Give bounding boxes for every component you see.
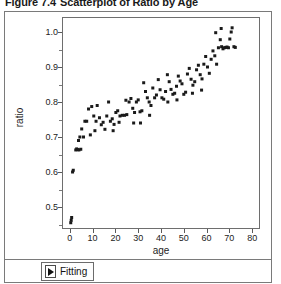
scatter-point bbox=[186, 73, 189, 76]
scatter-point bbox=[179, 80, 182, 83]
bottom-toolbar: Fitting bbox=[4, 260, 272, 283]
fitting-label: Fitting bbox=[60, 267, 87, 277]
scatter-point bbox=[132, 122, 135, 125]
scatter-point bbox=[202, 63, 205, 66]
scatter-point bbox=[142, 81, 145, 84]
scatter-point bbox=[80, 127, 83, 130]
scatter-point bbox=[105, 115, 108, 118]
scatter-point bbox=[211, 49, 214, 52]
x-tick-label: 40 bbox=[150, 234, 172, 243]
y-tick-mark bbox=[58, 137, 62, 138]
scatter-point bbox=[70, 216, 73, 219]
x-tick-label: 0 bbox=[59, 234, 81, 243]
scatter-point bbox=[168, 80, 171, 83]
y-tick-mark bbox=[58, 102, 62, 103]
x-tick-label: 20 bbox=[104, 234, 126, 243]
scatter-point bbox=[102, 121, 105, 124]
scatter-point bbox=[133, 111, 136, 114]
x-tick-label: 30 bbox=[127, 234, 149, 243]
scatter-point bbox=[166, 101, 169, 104]
scatter-point bbox=[107, 101, 110, 104]
scatter-point bbox=[190, 78, 193, 81]
scatter-point bbox=[96, 104, 99, 107]
scatter-point bbox=[175, 98, 178, 101]
scatter-point bbox=[146, 96, 149, 99]
scatter-point bbox=[82, 136, 85, 139]
scatter-point bbox=[230, 31, 233, 34]
scatter-point bbox=[144, 90, 147, 93]
scatter-point bbox=[131, 107, 134, 110]
figure-caption-text: Scatterplot of Ratio by Age bbox=[60, 0, 198, 8]
scatter-point bbox=[139, 122, 142, 125]
y-tick-mark bbox=[58, 67, 62, 68]
scatter-point bbox=[151, 87, 154, 90]
y-tick-label: 1.0 bbox=[36, 28, 58, 37]
scatter-point bbox=[180, 82, 183, 85]
x-tick-label: 10 bbox=[82, 234, 104, 243]
scatter-point bbox=[77, 139, 80, 142]
y-tick-minor-mark bbox=[59, 225, 62, 226]
scatter-point bbox=[112, 129, 115, 132]
scatter-point bbox=[164, 90, 167, 93]
scatter-point bbox=[116, 109, 119, 112]
scatter-point bbox=[128, 101, 131, 104]
scatter-point bbox=[175, 85, 178, 88]
y-tick-minor-mark bbox=[59, 155, 62, 156]
y-tick-label: 0.5 bbox=[36, 203, 58, 212]
scatter-point bbox=[231, 26, 234, 29]
scatter-point bbox=[195, 68, 198, 71]
scatter-point bbox=[149, 104, 152, 107]
scatter-point bbox=[93, 129, 96, 132]
y-tick-minor-mark bbox=[59, 120, 62, 121]
y-tick-minor-mark bbox=[59, 50, 62, 51]
figure-screenshot: Figure 7.4Scatterplot of Ratio by Age ra… bbox=[0, 0, 281, 284]
y-tick-minor-mark bbox=[59, 85, 62, 86]
x-tick-label: 80 bbox=[241, 234, 263, 243]
y-tick-mark bbox=[58, 207, 62, 208]
y-tick-mark bbox=[58, 172, 62, 173]
triangle-right-icon[interactable] bbox=[45, 265, 56, 278]
scatter-point bbox=[213, 54, 216, 57]
y-tick-minor-mark bbox=[59, 190, 62, 191]
scatter-point bbox=[204, 55, 207, 58]
scatter-point bbox=[70, 219, 73, 222]
scatter-point bbox=[153, 96, 156, 99]
scatter-point bbox=[103, 128, 106, 131]
x-tick-label: 60 bbox=[196, 234, 218, 243]
figure-number: Figure 7.4 bbox=[5, 0, 56, 8]
scatter-point bbox=[157, 78, 160, 81]
scatter-point bbox=[89, 133, 92, 136]
scatter-point bbox=[227, 46, 230, 49]
scatter-point bbox=[129, 97, 132, 100]
scatter-point bbox=[210, 58, 213, 61]
x-tick-label: 70 bbox=[218, 234, 240, 243]
scatter-point bbox=[98, 116, 101, 119]
scatter-point bbox=[197, 64, 200, 67]
scatter-point bbox=[191, 84, 194, 87]
scatter-point bbox=[118, 121, 121, 124]
scatter-point bbox=[87, 108, 90, 111]
scatter-point bbox=[220, 27, 223, 30]
scatter-point bbox=[228, 38, 231, 41]
scatter-point bbox=[137, 98, 140, 101]
scatter-point bbox=[173, 92, 176, 95]
y-tick-mark bbox=[58, 32, 62, 33]
scatter-point bbox=[92, 115, 95, 118]
scatter-point bbox=[111, 117, 114, 120]
scatter-point bbox=[208, 72, 211, 75]
scatter-point bbox=[191, 92, 194, 95]
scatter-point bbox=[199, 73, 202, 76]
scatter-point bbox=[200, 89, 203, 92]
scatter-point bbox=[125, 113, 128, 116]
plot-area[interactable] bbox=[62, 17, 260, 229]
scatter-point bbox=[95, 120, 98, 123]
scatter-point bbox=[159, 88, 162, 91]
scatter-point bbox=[124, 99, 127, 102]
y-tick-label: 0.7 bbox=[36, 133, 58, 142]
fitting-expander[interactable]: Fitting bbox=[41, 262, 94, 281]
scatter-points bbox=[63, 18, 259, 228]
x-tick-label: 50 bbox=[173, 234, 195, 243]
scatter-point bbox=[113, 123, 116, 126]
scatter-point bbox=[78, 136, 81, 139]
scatter-point bbox=[206, 66, 209, 69]
